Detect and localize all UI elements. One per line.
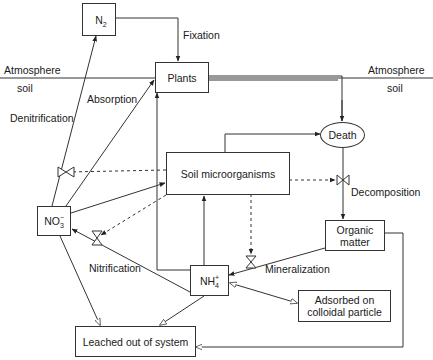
node-organic-matter: Organic matter xyxy=(325,220,385,251)
no3-formula: NO−3 xyxy=(44,215,60,227)
edge-no3-micro xyxy=(71,183,165,213)
node-soil-microorganisms: Soil microorganisms xyxy=(166,152,290,195)
label-fixation: Fixation xyxy=(183,29,220,41)
label-atmosphere-right: Atmosphere xyxy=(368,64,425,76)
node-adsorbed-colloidal: Adsorbed on colloidal particle xyxy=(298,290,391,322)
valve-nitrification-icon xyxy=(92,231,102,245)
label-atmosphere-left: Atmosphere xyxy=(4,64,61,76)
node-plants: Plants xyxy=(155,62,209,93)
edge-plants-death-a xyxy=(208,76,342,121)
node-death: Death xyxy=(320,122,365,148)
edge-micro-death xyxy=(225,134,320,152)
edge-nh4-adsorbed xyxy=(230,283,297,303)
edge-nh4-leached xyxy=(160,296,204,325)
node-leached: Leached out of system xyxy=(75,326,196,357)
edge-nitrification xyxy=(72,229,190,292)
nh4-formula: NH+4 xyxy=(200,275,215,287)
label-decomposition: Decomposition xyxy=(351,186,420,198)
edge-no3-leached xyxy=(60,236,100,325)
n2-formula: N2 xyxy=(95,14,103,26)
edge-fixation xyxy=(116,18,178,61)
control-denitrification xyxy=(68,170,166,172)
valve-mineralization-icon xyxy=(246,256,256,268)
node-no3: NO−3 xyxy=(37,206,71,236)
label-mineralization: Mineralization xyxy=(265,263,330,275)
label-absorption: Absorption xyxy=(87,93,137,105)
valve-denitrification-icon xyxy=(58,167,74,177)
label-soil-right: soil xyxy=(387,82,403,94)
label-denitrification: Denitrification xyxy=(10,112,74,124)
label-soil-left: soil xyxy=(17,82,33,94)
node-nh4: NH+4 xyxy=(190,265,229,296)
label-nitrification: Nitrification xyxy=(89,262,141,274)
node-n2: N2 xyxy=(82,3,116,36)
control-nitrification xyxy=(101,195,166,235)
